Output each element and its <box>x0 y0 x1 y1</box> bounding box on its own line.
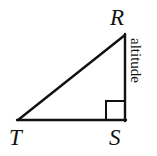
side-label-altitude: altitude <box>128 38 143 83</box>
geometry-figure: R T S altitude <box>0 0 157 156</box>
vertex-label-S: S <box>109 126 121 149</box>
vertex-label-T: T <box>9 126 22 149</box>
triangle-side-hypotenuse-TR <box>18 35 125 120</box>
vertex-label-R: R <box>110 6 124 29</box>
right-angle-marker-icon <box>106 101 125 120</box>
